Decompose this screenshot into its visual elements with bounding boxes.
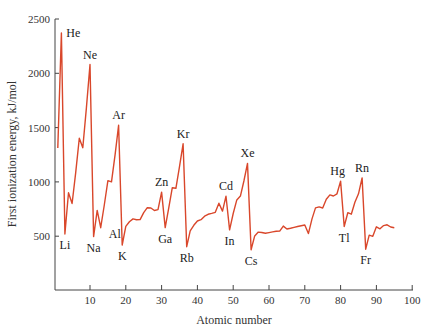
x-ticks: 102030405060708090100 — [85, 285, 421, 306]
ionization-energy-line — [58, 33, 395, 250]
element-label-hg: Hg — [330, 164, 345, 178]
y-ticks: 5001000150020002500 — [28, 13, 59, 242]
element-label-rn: Rn — [355, 161, 369, 175]
x-tick-label: 40 — [192, 294, 204, 306]
element-label-in: In — [225, 234, 235, 248]
x-tick-label: 60 — [264, 294, 276, 306]
element-label-he: He — [66, 26, 80, 40]
element-label-tl: Tl — [339, 231, 350, 245]
element-label-rb: Rb — [180, 251, 194, 265]
element-labels: HeNeArKrXeRnZnCdHgLiNaAlKGaRbInCsTlFr — [60, 26, 371, 268]
element-label-ga: Ga — [158, 232, 173, 246]
element-label-li: Li — [60, 238, 71, 252]
element-label-al: Al — [109, 227, 122, 241]
x-tick-label: 20 — [120, 294, 132, 306]
x-tick-label: 90 — [371, 294, 383, 306]
x-tick-label: 100 — [404, 294, 421, 306]
y-tick-label: 1500 — [28, 122, 51, 134]
y-tick-label: 500 — [34, 230, 51, 242]
element-label-k: K — [118, 249, 127, 263]
element-label-xe: Xe — [241, 146, 255, 160]
x-tick-label: 50 — [228, 294, 240, 306]
x-tick-label: 30 — [156, 294, 168, 306]
x-tick-label: 10 — [85, 294, 97, 306]
y-axis-title: First ionization energy, kJ/mol — [5, 80, 19, 227]
y-tick-label: 2500 — [28, 13, 51, 25]
y-tick-label: 2000 — [28, 67, 51, 79]
x-tick-label: 70 — [299, 294, 311, 306]
element-label-kr: Kr — [177, 127, 190, 141]
element-label-zn: Zn — [155, 175, 168, 189]
ionization-energy-chart: 5001000150020002500 10203040506070809010… — [0, 0, 433, 331]
axes — [55, 19, 413, 290]
x-axis-title: Atomic number — [196, 313, 272, 327]
element-label-fr: Fr — [360, 253, 371, 267]
element-label-na: Na — [87, 241, 102, 255]
y-tick-label: 1000 — [28, 176, 51, 188]
element-label-cs: Cs — [245, 254, 258, 268]
element-label-cd: Cd — [219, 179, 233, 193]
element-label-ar: Ar — [112, 108, 125, 122]
element-label-ne: Ne — [83, 48, 97, 62]
x-tick-label: 80 — [335, 294, 347, 306]
